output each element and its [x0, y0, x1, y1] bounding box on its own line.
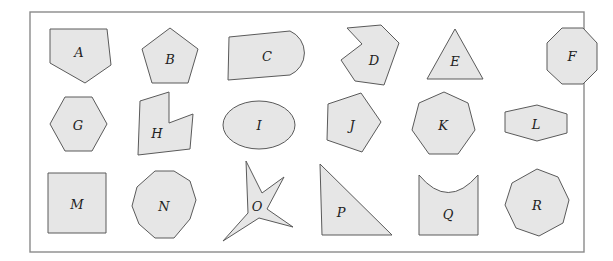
shape-m: M — [48, 173, 106, 233]
shape-f: F — [547, 28, 597, 84]
shape-c-label: C — [262, 49, 272, 64]
shape-q-label: Q — [443, 207, 454, 222]
shape-f-label: F — [566, 49, 577, 64]
shape-g-label: G — [73, 118, 83, 133]
shapes-figure: A B C D E F G H I J K L — [0, 0, 613, 261]
shape-m-label: M — [69, 197, 84, 212]
shape-p-label: P — [336, 205, 346, 220]
shape-i-label: I — [255, 118, 262, 133]
shape-k-label: K — [437, 118, 449, 133]
shape-c: C — [228, 31, 304, 80]
shape-e-label: E — [449, 54, 460, 69]
shape-a-label: A — [73, 45, 83, 60]
shape-h-label: H — [150, 126, 163, 141]
shape-o-label: O — [252, 199, 263, 214]
figure-frame — [30, 12, 584, 252]
shape-l-label: L — [531, 117, 541, 132]
shape-n-label: N — [157, 199, 170, 214]
shape-d-label: D — [368, 53, 380, 68]
shape-r-label: R — [531, 198, 542, 213]
shape-i: I — [223, 101, 295, 149]
shape-b-label: B — [164, 52, 175, 67]
